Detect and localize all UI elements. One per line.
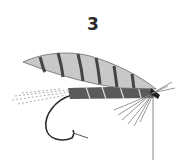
fishing-fly-illustration bbox=[0, 0, 186, 163]
tail-fibers bbox=[12, 89, 70, 104]
